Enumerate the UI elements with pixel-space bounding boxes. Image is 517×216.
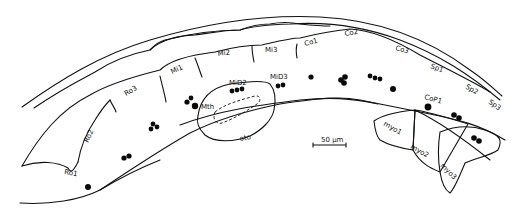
label-cop1: CoP1 (423, 93, 442, 105)
label-mid2: MiD2 (229, 79, 247, 87)
label-co3: Co3 (394, 44, 409, 55)
divider-ro3-mi1 (160, 76, 166, 102)
divider-mi3-co1 (296, 44, 297, 58)
label-mth: Mth (201, 103, 214, 111)
myo3-outline (439, 127, 501, 193)
neuromast-dots (85, 74, 482, 190)
label-ro2: Ro2 (83, 128, 96, 143)
label-myo2: myo2 (409, 143, 430, 160)
label-mi1: Mi1 (169, 63, 184, 76)
anatomical-diagram: Ro1 Ro2 Ro3 Mi1 Mi2 Mi3 Co1 Co2 Co3 Sp1 … (0, 0, 517, 216)
label-oto: oto (239, 133, 252, 143)
label-co1: Co1 (303, 37, 318, 48)
label-mi3: Mi3 (265, 46, 277, 54)
label-ro3: Ro3 (123, 84, 139, 98)
segment-row-inner (22, 29, 490, 166)
mid-contour (100, 98, 378, 190)
label-co2: Co2 (344, 28, 359, 38)
divider-ro1-ro2 (78, 100, 110, 162)
label-sp1: Sp1 (429, 62, 444, 74)
segment-arcs-upper (150, 23, 330, 51)
divider-ro2-ro3 (110, 100, 116, 112)
divider-mi1-mi2 (195, 58, 202, 77)
label-ro1: Ro1 (64, 168, 78, 178)
label-mid3: MiD3 (270, 73, 288, 81)
label-mi2: Mi2 (217, 48, 230, 58)
label-myo1: myo1 (382, 120, 403, 137)
divider-mi2-mi3 (252, 46, 254, 62)
scale-bar-label: 50 µm (321, 136, 344, 144)
